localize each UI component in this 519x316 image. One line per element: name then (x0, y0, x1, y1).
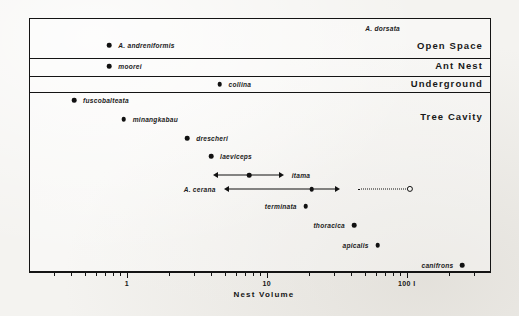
range-arrow-left-a-cerana (224, 186, 229, 192)
species-label-canifrons: canifrons (421, 262, 453, 269)
data-point-thoracica (352, 223, 357, 228)
species-label-thoracica: thoracica (313, 222, 345, 229)
data-point-drescheri (185, 136, 190, 141)
x-tick-minor-0.7 (105, 272, 106, 276)
species-label-laeviceps: laeviceps (220, 153, 252, 160)
plot-frame (29, 18, 491, 272)
range-extension-a-cerana (358, 189, 410, 190)
range-arrow-left-itama (213, 172, 218, 178)
x-tick-minor-80 (393, 272, 394, 276)
x-tick-minor-0.4 (71, 272, 72, 276)
x-axis-title: Nest Volume (233, 290, 294, 299)
data-point-apicalis (375, 243, 380, 248)
band-label-ant-nest: Ant Nest (435, 60, 483, 71)
band-divider-0 (29, 58, 491, 59)
x-tick-minor-200 (449, 272, 450, 276)
x-tick-minor-0.6 (96, 272, 97, 276)
x-tick-minor-0.3 (54, 272, 55, 276)
band-label-underground: Underground (411, 78, 483, 89)
x-tick-minor-9 (260, 272, 261, 276)
species-label-a-cerana: A. cerana (184, 186, 216, 193)
x-tick-label-100: 100 l (398, 280, 416, 287)
species-label-drescheri: drescheri (196, 135, 228, 142)
data-point-moorei (107, 64, 112, 69)
x-tick-minor-3 (194, 272, 195, 276)
data-point-canifrons (460, 263, 465, 268)
range-arrow-right-itama (279, 172, 284, 178)
x-tick-minor-8 (253, 272, 254, 276)
data-point-a-cerana (310, 187, 315, 192)
species-label-minangkabau: minangkabau (133, 116, 178, 123)
band-label-open-space: Open Space (417, 40, 483, 51)
x-tick-minor-60 (376, 272, 377, 276)
band-divider-1 (29, 76, 491, 77)
x-tick-minor-5 (225, 272, 226, 276)
species-label-a-andreniformis: A. andreniformis (118, 42, 174, 49)
nest-volume-figure: Open SpaceAnt NestUndergroundTree Cavity… (0, 0, 519, 316)
species-label-collina: collina (229, 81, 252, 88)
data-point-fuscobalteata (72, 98, 77, 103)
x-tick-minor-7 (245, 272, 246, 276)
species-label-apicalis: apicalis (342, 242, 368, 249)
x-tick-minor-2 (169, 272, 170, 276)
x-tick-label-10: 10 (262, 280, 271, 287)
x-tick-minor-40 (351, 272, 352, 276)
range-arrow-right-a-cerana (335, 186, 340, 192)
data-point-terminata (303, 204, 308, 209)
x-tick-label-1: 1 (125, 280, 129, 287)
species-label-fuscobalteata: fuscobalteata (83, 97, 129, 104)
x-tick-minor-0.5 (85, 272, 86, 276)
band-divider-2 (29, 92, 491, 93)
species-label-itama: itama (292, 172, 310, 179)
x-tick-major-1 (127, 272, 128, 278)
x-tick-minor-4 (211, 272, 212, 276)
data-point-collina (217, 82, 222, 87)
species-label-moorei: moorei (118, 63, 141, 70)
data-point-a-andreniformis (107, 43, 112, 48)
data-point-itama (247, 173, 252, 178)
band-label-tree-cavity: Tree Cavity (420, 111, 483, 122)
x-tick-minor-20 (309, 272, 310, 276)
data-point-laeviceps (209, 154, 214, 159)
x-tick-minor-50 (365, 272, 366, 276)
species-label-a-dorsata: A. dorsata (365, 25, 400, 32)
species-label-terminata: terminata (265, 203, 297, 210)
x-tick-major-100 (407, 272, 408, 278)
x-tick-minor-6 (236, 272, 237, 276)
range-bar-a-cerana (229, 189, 336, 190)
x-tick-minor-30 (334, 272, 335, 276)
data-point-minangkabau (121, 117, 126, 122)
x-tick-major-10 (267, 272, 268, 278)
x-tick-minor-0.9 (120, 272, 121, 276)
x-tick-minor-0.8 (113, 272, 114, 276)
x-tick-minor-70 (385, 272, 386, 276)
x-tick-minor-300 (474, 272, 475, 276)
x-tick-minor-90 (400, 272, 401, 276)
